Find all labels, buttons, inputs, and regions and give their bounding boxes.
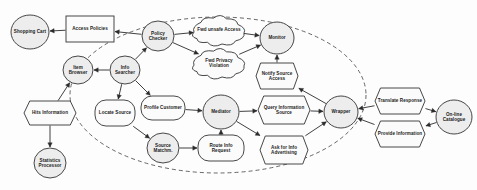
locate-source-label: Locate Source: [99, 110, 132, 115]
e-access-to-cart-arrow-icon: [50, 29, 54, 33]
wrapper-label: Wrapper: [332, 109, 351, 114]
node-item-browser[interactable]: ItemBrowser: [63, 56, 93, 84]
e-provide-to-wrapper: [358, 118, 375, 125]
e-mediator-to-ask: [237, 121, 260, 135]
node-ask-for-info-advertising[interactable]: Ask for InfoAdvertising: [260, 136, 308, 164]
e-mediator-to-query-arrow-icon: [253, 109, 257, 113]
statistics-processor-label: StatisticsProcessor: [39, 158, 62, 168]
e-hits-to-statistics-arrow-icon: [48, 143, 52, 147]
e-unsafe-to-monitor: [244, 33, 259, 37]
e-checker-to-privacy: [173, 43, 199, 55]
e-locate-to-matchm-arrow-icon: [145, 134, 150, 138]
e-locate-to-matchm: [133, 126, 149, 138]
e-notify-to-monitor: [275, 55, 279, 63]
shopping-cart-label: Shopping Cart: [14, 29, 47, 34]
e-route-to-mediator: [219, 130, 223, 135]
e-catalogue-to-provide: [426, 122, 437, 126]
e-checker-to-policies: [115, 30, 142, 35]
node-translate-response[interactable]: Translate Response: [375, 88, 425, 114]
node-query-information-source[interactable]: Query InformationSource: [258, 96, 310, 124]
node-hits-information[interactable]: Hits Information: [24, 101, 76, 125]
policy-checker-label: PolicyChecker: [149, 31, 168, 41]
e-privacy-to-monitor: [239, 45, 260, 55]
e-profile-to-mediator-arrow-icon: [198, 108, 202, 112]
agent-architecture-diagram: Shopping CartAccess PoliciesPolicyChecke…: [0, 0, 477, 190]
e-translate-to-catalogue-arrow-icon: [431, 108, 436, 112]
e-privacy-to-monitor-arrow-icon: [256, 45, 261, 49]
e-access-to-cart: [50, 29, 66, 33]
e-ask-to-wrapper-arrow-icon: [322, 122, 327, 126]
node-access-policies[interactable]: Access Policies: [66, 16, 114, 42]
e-notify-to-monitor-arrow-icon: [275, 55, 279, 59]
node-monitor[interactable]: Monitor: [260, 22, 294, 54]
e-checker-to-unsafe: [174, 31, 193, 35]
e-provide-to-wrapper-arrow-icon: [358, 118, 363, 122]
ask-for-info-advertising-label: Ask for InfoAdvertising: [271, 145, 297, 155]
diagram-canvas: Shopping CartAccess PoliciesPolicyChecke…: [0, 0, 477, 190]
e-searcher-to-browser: [94, 68, 110, 72]
hits-information-label: Hits Information: [32, 110, 68, 115]
e-hits-to-browser: [58, 83, 70, 101]
translate-response-label: Translate Response: [378, 98, 423, 103]
provide-information-label: Provide Information: [378, 131, 422, 136]
mediator-label: Mediator: [211, 109, 231, 114]
source-matchm-label: SourceMatchm.: [154, 143, 173, 153]
node-locate-source[interactable]: Locate Source: [95, 100, 135, 126]
profile-customer-label: Profile Customer: [144, 105, 182, 110]
e-query-to-wrapper-arrow-icon: [319, 109, 323, 113]
fwd-unsafe-access-label: Fwd unsafe Access: [197, 27, 241, 32]
e-matchm-to-route: [180, 146, 198, 150]
e-searcher-to-browser-arrow-icon: [94, 68, 98, 72]
node-fwd-privacy-violation[interactable]: Fwd PrivacyViolation: [192, 49, 244, 79]
e-catalogue-to-provide-arrow-icon: [426, 122, 431, 126]
node-statistics-processor[interactable]: StatisticsProcessor: [34, 148, 66, 178]
e-translate-to-wrapper-arrow-icon: [359, 106, 364, 110]
node-layer: Shopping CartAccess PoliciesPolicyChecke…: [11, 15, 472, 178]
route-info-request-label: Route InfoRequest: [209, 143, 232, 153]
e-searcher-to-locate: [117, 84, 122, 99]
node-policy-checker[interactable]: PolicyChecker: [142, 21, 174, 51]
node-notify-source-access[interactable]: Notify SourceAccess: [256, 63, 298, 89]
e-mediator-to-query: [239, 109, 257, 113]
node-provide-information[interactable]: Provide Information: [375, 121, 425, 147]
e-searcher-to-profile: [136, 81, 151, 96]
node-mediator[interactable]: Mediator: [203, 95, 239, 129]
e-matchm-to-route-arrow-icon: [193, 146, 197, 150]
node-fwd-unsafe-access[interactable]: Fwd unsafe Access: [192, 16, 244, 46]
e-hits-to-browser-arrow-icon: [66, 83, 70, 88]
e-checker-to-policies-arrow-icon: [115, 30, 119, 34]
e-hits-to-statistics: [48, 126, 52, 148]
node-route-info-request[interactable]: Route InfoRequest: [198, 135, 244, 161]
node-info-searcher[interactable]: InfoSearcher: [110, 56, 140, 84]
node-source-matchm[interactable]: SourceMatchm.: [147, 133, 179, 163]
e-unsafe-to-monitor-arrow-icon: [255, 33, 259, 37]
e-query-to-wrapper: [311, 109, 324, 113]
node-on-line-catalogue[interactable]: On-lineCatalogue: [436, 100, 472, 134]
access-policies-label: Access Policies: [72, 26, 108, 31]
e-translate-to-catalogue: [425, 108, 435, 112]
node-shopping-cart[interactable]: Shopping Cart: [11, 15, 49, 49]
e-searcher-to-checker: [135, 48, 146, 59]
monitor-label: Monitor: [268, 35, 285, 40]
e-searcher-to-locate-arrow-icon: [117, 94, 121, 99]
e-profile-to-mediator: [186, 108, 203, 112]
e-route-to-mediator-arrow-icon: [219, 130, 223, 134]
e-checker-to-privacy-arrow-icon: [194, 50, 199, 54]
node-wrapper[interactable]: Wrapper: [324, 96, 358, 128]
e-translate-to-wrapper: [359, 106, 375, 110]
e-ask-to-wrapper: [305, 122, 326, 136]
node-profile-customer[interactable]: Profile Customer: [141, 96, 185, 120]
